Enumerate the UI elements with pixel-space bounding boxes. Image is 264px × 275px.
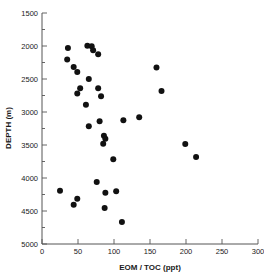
data-point <box>64 57 70 63</box>
data-point <box>65 45 71 51</box>
y-tick-label: 1500 <box>21 9 38 18</box>
data-point <box>120 117 126 123</box>
data-point <box>98 93 104 99</box>
data-point <box>97 118 103 124</box>
data-point <box>119 219 125 225</box>
data-point <box>153 64 159 70</box>
data-point <box>159 88 165 94</box>
data-point <box>83 102 89 108</box>
data-point <box>74 69 80 75</box>
chart-canvas: 15002000250030003500400045005000 DEPTH (… <box>0 0 264 275</box>
data-point <box>86 123 92 129</box>
y-tick-label: 4000 <box>21 174 38 183</box>
y-tick-label: 4500 <box>21 207 38 216</box>
data-point <box>74 91 80 97</box>
data-point <box>71 64 77 70</box>
scatter-plot-figure: 15002000250030003500400045005000 DEPTH (… <box>0 0 264 275</box>
chart-background <box>0 0 264 275</box>
data-point <box>95 85 101 91</box>
x-tick-label: 50 <box>74 247 82 256</box>
data-point <box>136 114 142 120</box>
y-tick-label: 2000 <box>21 42 38 51</box>
data-point <box>102 190 108 196</box>
x-tick-label: 300 <box>252 247 264 256</box>
data-point <box>74 196 80 202</box>
data-point <box>193 154 199 160</box>
data-point <box>57 188 63 194</box>
x-tick-label: 250 <box>216 247 229 256</box>
x-tick-label: 150 <box>144 247 157 256</box>
x-tick-label: 200 <box>180 247 193 256</box>
data-point <box>95 51 101 57</box>
data-point <box>94 179 100 185</box>
y-axis-title: DEPTH (m) <box>4 107 13 149</box>
data-point <box>182 141 188 147</box>
y-tick-label: 3000 <box>21 108 38 117</box>
data-point <box>102 205 108 211</box>
y-tick-label: 3500 <box>21 141 38 150</box>
data-point <box>110 156 116 162</box>
y-tick-label: 2500 <box>21 75 38 84</box>
x-tick-label: 0 <box>40 247 44 256</box>
data-point <box>90 47 96 53</box>
y-tick-label: 5000 <box>21 240 38 249</box>
data-point <box>77 85 83 91</box>
data-point <box>86 76 92 82</box>
data-point <box>100 141 106 147</box>
x-tick-label: 100 <box>108 247 121 256</box>
x-axis-title: EOM / TOC (ppt) <box>119 263 181 272</box>
data-point <box>71 202 77 208</box>
data-point <box>113 188 119 194</box>
